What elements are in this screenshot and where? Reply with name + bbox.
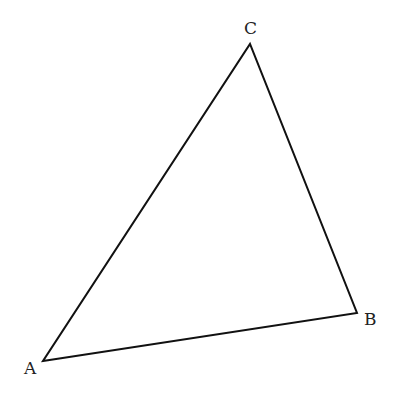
vertex-label-a: A <box>23 358 37 378</box>
triangle-abc <box>43 44 357 361</box>
triangle-diagram: A B C <box>0 0 404 399</box>
vertex-label-b: B <box>364 309 377 329</box>
vertex-label-c: C <box>244 18 257 38</box>
